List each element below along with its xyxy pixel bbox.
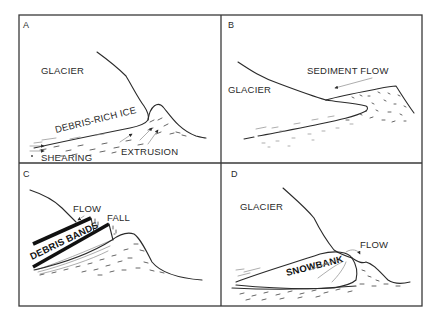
panel-c: C DEBRIS BANDS FLOW FALL	[23, 169, 202, 280]
glacier-surface-line	[30, 190, 76, 222]
sediment-flow-arrow	[335, 78, 372, 88]
panel-a-letter: A	[23, 20, 29, 30]
panel-a: A GLACIER DEBRIS-RICH ICE EXTRUSION SHEA…	[23, 20, 206, 163]
sediment-flow-label: SEDIMENT FLOW	[307, 65, 389, 76]
sediment-ridge-surface	[326, 86, 414, 113]
ice-face-lower	[109, 224, 113, 240]
flow-label: FLOW	[360, 239, 388, 250]
sediment-dashes	[240, 270, 400, 300]
glacier-surface-line	[283, 188, 352, 258]
moraine-ridge	[352, 258, 410, 283]
glacial-landform-diagram: A GLACIER DEBRIS-RICH ICE EXTRUSION SHEA…	[0, 0, 442, 320]
glacier-tongue-lower	[244, 111, 366, 139]
shearing-label: SHEARING	[41, 152, 92, 163]
glacier-tongue-upper	[326, 100, 368, 111]
debris-rich-ice-label: DEBRIS-RICH ICE	[54, 104, 137, 135]
panel-b: B GLACIER SEDIMENT FLOW	[228, 20, 414, 147]
fall-label: FALL	[107, 212, 130, 223]
extrusion-arrows	[120, 128, 158, 144]
panel-d-letter: D	[231, 169, 238, 179]
panel-d: D GLACIER SNOWBANK FLOW	[231, 169, 410, 300]
flow-arrow	[346, 250, 360, 254]
panel-b-letter: B	[228, 20, 234, 30]
glacier-label: GLACIER	[41, 65, 84, 76]
flow-label: FLOW	[73, 203, 101, 214]
moraine-ridge	[148, 104, 206, 138]
flow-arrow	[78, 216, 84, 220]
glacier-label: GLACIER	[228, 84, 271, 95]
panel-c-letter: C	[23, 169, 30, 179]
glacier-label: GLACIER	[240, 201, 283, 212]
extrusion-label: EXTRUSION	[121, 146, 178, 157]
